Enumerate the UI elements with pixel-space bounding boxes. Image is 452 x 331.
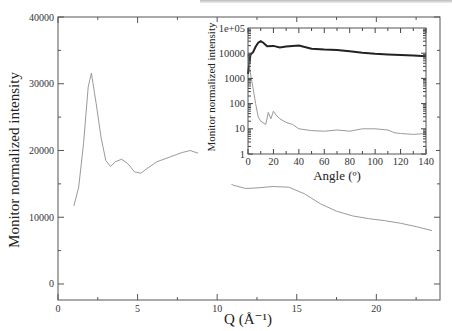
inset-y-axis-label: Monitor normalized intensity bbox=[205, 22, 217, 151]
svg-text:20: 20 bbox=[371, 303, 381, 314]
svg-text:120: 120 bbox=[393, 156, 409, 167]
svg-text:1: 1 bbox=[240, 149, 245, 160]
main-y-axis-label: Monitor normalized intensity bbox=[6, 72, 22, 248]
svg-text:10: 10 bbox=[235, 123, 246, 134]
svg-text:5: 5 bbox=[135, 303, 140, 314]
svg-text:20: 20 bbox=[268, 156, 279, 167]
svg-text:40000: 40000 bbox=[29, 12, 54, 23]
svg-text:0: 0 bbox=[245, 156, 250, 167]
svg-text:100: 100 bbox=[367, 156, 383, 167]
svg-text:1e+05: 1e+05 bbox=[219, 23, 245, 34]
svg-text:60: 60 bbox=[319, 156, 330, 167]
svg-text:100: 100 bbox=[229, 98, 245, 109]
svg-text:10: 10 bbox=[212, 303, 222, 314]
svg-text:10000: 10000 bbox=[219, 48, 245, 59]
svg-text:0: 0 bbox=[56, 303, 61, 314]
svg-text:40: 40 bbox=[294, 156, 305, 167]
svg-text:15: 15 bbox=[292, 303, 302, 314]
svg-text:1000: 1000 bbox=[224, 73, 245, 84]
chart-canvas: 05101520010000200003000040000 Q (Å⁻¹) Mo… bbox=[0, 0, 452, 331]
svg-text:10000: 10000 bbox=[29, 212, 54, 223]
inset-x-axis-label: Angle (º) bbox=[313, 168, 361, 183]
svg-text:0: 0 bbox=[49, 278, 54, 289]
svg-text:140: 140 bbox=[418, 156, 434, 167]
svg-text:80: 80 bbox=[344, 156, 355, 167]
main-x-axis-label: Q (Å⁻¹) bbox=[224, 311, 272, 328]
svg-text:20000: 20000 bbox=[29, 145, 54, 156]
inset-plot: 0204060801001201401101001000100001e+05 A… bbox=[198, 22, 436, 184]
svg-text:30000: 30000 bbox=[29, 78, 54, 89]
